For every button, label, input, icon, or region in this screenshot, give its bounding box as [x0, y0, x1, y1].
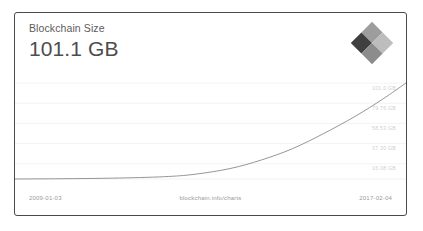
title-block: Blockchain Size 101.1 GB: [29, 22, 119, 62]
footer-start-date: 2009-01-03: [29, 194, 62, 203]
logo-diamond-shape: [351, 22, 393, 64]
chart-svg: [15, 75, 406, 185]
chart-current-value: 101.1 GB: [29, 36, 119, 62]
chart-plot-area: [15, 75, 406, 185]
blockchain-diamond-logo: [350, 21, 394, 65]
chart-gridlines: [15, 83, 406, 179]
card-header: Blockchain Size 101.1 GB: [15, 13, 406, 75]
chart-line-series: [15, 83, 406, 179]
footer-source-link[interactable]: blockchain.info/charts: [179, 194, 241, 203]
footer-end-date: 2017-02-04: [359, 194, 392, 203]
chart-title: Blockchain Size: [29, 22, 119, 35]
card-footer: 2009-01-03 blockchain.info/charts 2017-0…: [15, 185, 406, 215]
blockchain-size-chart-card: Blockchain Size 101.1 GB 101.0 GB79.76 G…: [14, 12, 407, 216]
